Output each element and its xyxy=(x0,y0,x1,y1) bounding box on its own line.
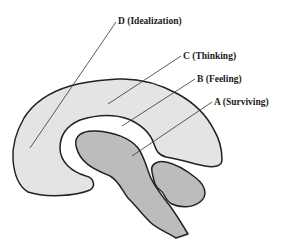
label-d-idealization: D (Idealization) xyxy=(118,17,182,27)
brain-diagram xyxy=(0,0,281,247)
label-a-surviving: A (Surviving) xyxy=(214,98,269,108)
label-c-thinking: C (Thinking) xyxy=(183,52,236,62)
label-b-feeling: B (Feeling) xyxy=(197,75,242,85)
